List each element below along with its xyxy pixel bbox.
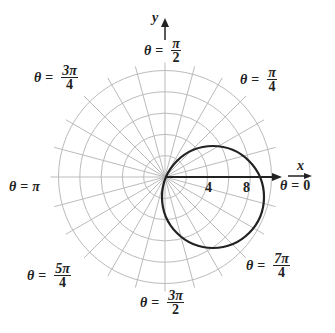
- polar-curve: [162, 146, 264, 248]
- angle-label-pi: θ=π: [9, 179, 40, 195]
- angle-label-pi-2: θ= π2: [144, 37, 181, 64]
- angle-label-3pi-4: θ= 3π4: [34, 64, 78, 91]
- angle-label-5pi-4: θ= 5π4: [27, 262, 71, 289]
- angle-label-0: θ=0: [280, 178, 310, 194]
- angle-label-pi-4: θ= π4: [240, 66, 277, 93]
- tick-label-8: 8: [243, 180, 250, 196]
- angle-label-7pi-4: θ= 7π4: [246, 252, 290, 279]
- y-axis-label: y: [152, 10, 158, 26]
- angle-label-3pi-2: θ= 3π2: [140, 289, 184, 316]
- tick-label-4: 4: [205, 180, 212, 196]
- x-axis-label: x: [297, 158, 304, 174]
